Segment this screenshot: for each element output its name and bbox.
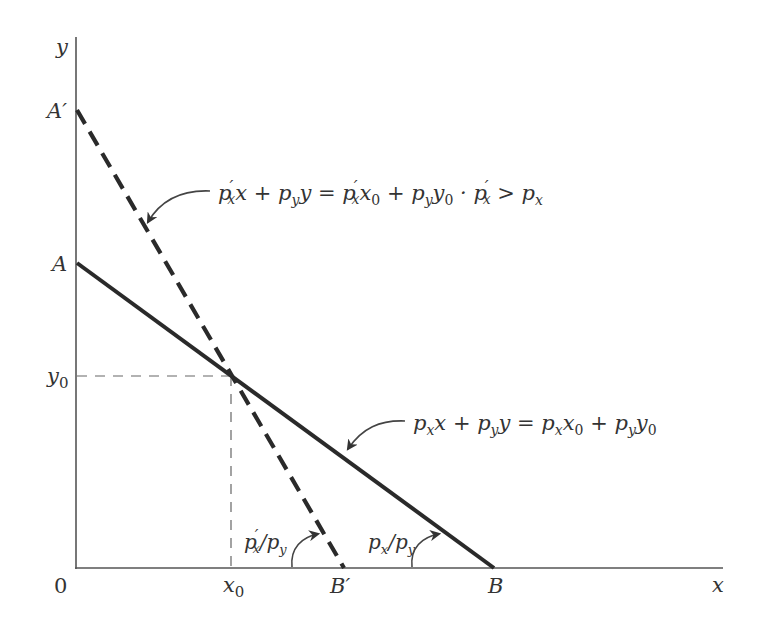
point-label-x0: x0	[223, 573, 244, 601]
budget-line-new-dashed	[77, 110, 344, 568]
origin-label: 0	[54, 574, 67, 598]
point-label-b: B	[487, 574, 503, 598]
point-label-y0: y0	[46, 364, 68, 392]
new-slope-label: p′x/py	[244, 526, 287, 557]
y-axis-label: y	[55, 35, 69, 59]
budget-constraint-diagram: y x 0 A′ A y0 x0 B′ B p′xx + pyy = p′xx0…	[0, 0, 764, 640]
orig-slope-angle-arrow	[412, 534, 439, 567]
new-line-pointer-arrow	[148, 191, 210, 222]
orig-line-pointer-arrow	[348, 421, 405, 449]
point-label-a: A	[50, 252, 67, 276]
new-slope-angle-arrow	[292, 534, 318, 567]
point-label-b-prime: B′	[329, 574, 350, 598]
point-label-a-prime: A′	[45, 99, 67, 123]
budget-line-original-solid	[77, 263, 494, 568]
new-line-equation: p′xx + pyy = p′xx0 + pyy0 · p′x > px	[218, 176, 543, 208]
x-axis-label: x	[712, 573, 724, 597]
orig-slope-label: px/py	[368, 530, 416, 557]
orig-line-equation: pxx + pyy = pxx0 + pyy0	[413, 411, 657, 438]
